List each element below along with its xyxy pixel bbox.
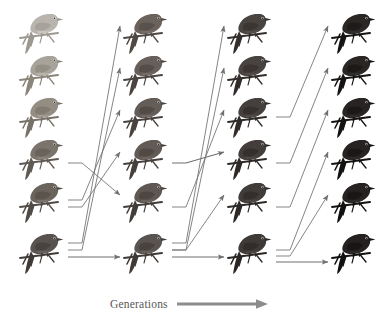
arrow-g1-a — [68, 26, 120, 243]
bird-c1-r6 — [18, 226, 64, 278]
arrow-g3-c — [276, 110, 328, 207]
arrow-g3-b — [276, 68, 328, 163]
arrow-g3-d — [276, 152, 328, 250]
bird-c4-r6 — [330, 226, 376, 278]
arrow-g2-b — [172, 68, 224, 250]
bird-c1-r5 — [18, 175, 64, 227]
bird-c3-r6 — [226, 226, 272, 278]
generations-label: Generations — [110, 298, 168, 310]
arrow-g3-a — [276, 26, 328, 117]
arrow-g1-c — [68, 110, 120, 200]
bird-c3-r5 — [226, 175, 272, 227]
bird-c2-r6 — [122, 226, 168, 278]
arrow-g2-d — [172, 152, 224, 163]
bird-c2-r5 — [122, 175, 168, 227]
selection-diagram: Generations — [0, 0, 385, 323]
arrow-g1-d — [68, 152, 120, 207]
arrow-g1-e — [68, 163, 120, 195]
arrow-g2-e — [172, 195, 224, 250]
arrow-g1-b — [68, 68, 120, 250]
generations-caption: Generations — [110, 294, 269, 314]
arrow-g3-e — [276, 195, 328, 256]
arrow-g2-a — [172, 26, 224, 243]
bird-c4-r5 — [330, 175, 376, 227]
right-arrow-icon — [177, 298, 269, 310]
arrow-g2-c — [172, 110, 224, 207]
